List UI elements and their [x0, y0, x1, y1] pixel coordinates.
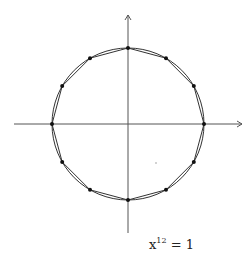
equation-exponent: 12: [156, 236, 166, 245]
root-point: [60, 160, 64, 164]
root-point: [192, 84, 196, 88]
stray-dot: [155, 162, 157, 164]
root-point: [126, 46, 130, 50]
root-point: [88, 188, 92, 192]
root-point: [50, 122, 54, 126]
root-point: [164, 56, 168, 60]
root-point: [126, 198, 130, 202]
root-point: [88, 56, 92, 60]
root-point: [60, 84, 64, 88]
root-point: [202, 122, 206, 126]
equation-rhs: = 1: [171, 237, 194, 252]
equation-label: x12 = 1: [149, 236, 194, 252]
roots-of-unity-diagram: [0, 0, 249, 262]
root-point: [164, 188, 168, 192]
root-point: [192, 160, 196, 164]
